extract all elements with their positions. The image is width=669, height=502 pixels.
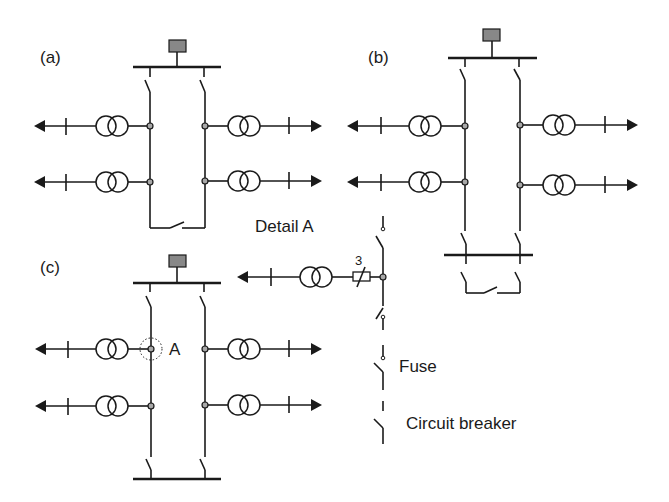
source-icon [169, 255, 186, 267]
switch-icon [514, 69, 520, 80]
source-icon [483, 29, 500, 41]
source-icon [169, 40, 186, 52]
feeder-left-1 [347, 116, 468, 136]
switch-icon [146, 296, 151, 307]
legend: Fuse Circuit breaker [374, 345, 517, 444]
feeder-right-2 [202, 171, 322, 191]
panel-c: (c) A [35, 255, 322, 479]
legend-circuit-breaker-label: Circuit breaker [406, 414, 517, 433]
switch-icon [515, 233, 520, 244]
feeder-right-1 [202, 339, 322, 359]
feeder-left-2 [34, 172, 153, 192]
switch-icon [460, 69, 465, 80]
feeder-left-2 [347, 172, 468, 192]
feeder-right-1 [202, 116, 322, 136]
panel-a: (a) [34, 40, 322, 228]
panel-a-label: (a) [40, 48, 61, 67]
panel-b-label: (b) [368, 48, 389, 67]
feeder-left-1 [34, 116, 153, 136]
switch-icon [376, 236, 383, 248]
panel-b: (b) [347, 29, 638, 293]
switch-icon [461, 272, 466, 282]
feeder-right-1 [517, 115, 638, 135]
diagram-canvas: (a) [0, 0, 669, 502]
detail-a: Detail A 3 [237, 216, 386, 330]
feeder-right-2 [517, 175, 638, 195]
switch-icon [200, 296, 205, 307]
tie-switch-icon [484, 287, 497, 293]
switch-icon [145, 80, 150, 92]
point-a-label: A [169, 340, 181, 359]
feeder-right-2 [202, 395, 322, 415]
feeder-left-2 [35, 396, 154, 416]
legend-fuse-label: Fuse [399, 357, 437, 376]
tie-switch-icon [170, 222, 184, 228]
feeder-left-1 [35, 338, 162, 360]
switch-icon [146, 459, 151, 470]
detail-count-label: 3 [355, 253, 362, 268]
switch-icon [200, 80, 205, 92]
switch-icon [461, 233, 466, 244]
switch-icon [515, 272, 520, 282]
panel-c-label: (c) [40, 258, 60, 277]
switch-icon [200, 459, 205, 470]
detail-a-title: Detail A [255, 217, 314, 236]
